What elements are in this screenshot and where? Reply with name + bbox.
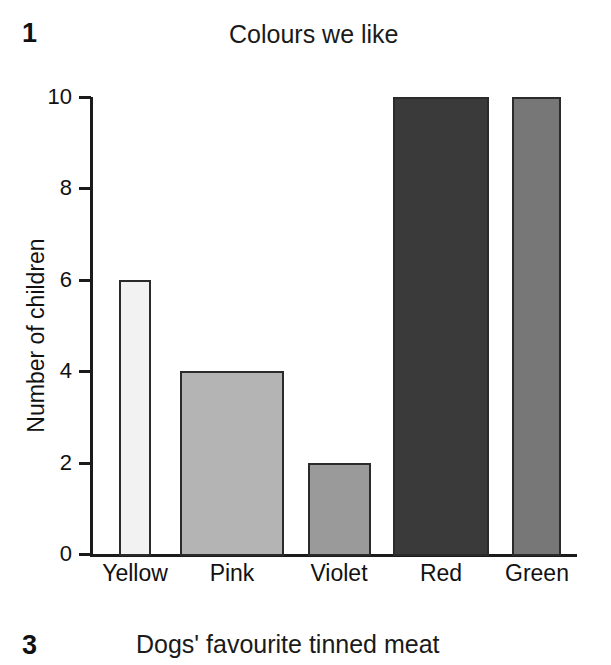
y-axis-tick-label: 10: [26, 86, 72, 108]
y-axis-tick-label: 4: [26, 360, 72, 382]
y-axis-line: [90, 97, 93, 555]
bar-chart-plot-area: Number of children 0246810 YellowPinkVio…: [0, 0, 611, 600]
y-axis-tick-label-wrap: 10: [22, 86, 72, 108]
y-axis-tick-label-wrap: 6: [22, 269, 72, 291]
y-axis-tick-label: 2: [26, 452, 72, 474]
y-axis-tick: [79, 96, 91, 99]
figure-1-chart: 1 Colours we like Number of children 024…: [0, 0, 611, 600]
y-axis-tick-label-wrap: 0: [22, 543, 72, 565]
y-axis-tick-label: 0: [26, 543, 72, 565]
y-axis-tick: [79, 279, 91, 282]
x-axis-label-green: Green: [477, 562, 597, 585]
y-axis-tick-label-wrap: 4: [22, 360, 72, 382]
y-axis-tick: [79, 370, 91, 373]
y-axis-tick-label-wrap: 2: [22, 452, 72, 474]
x-axis-label-pink: Pink: [172, 562, 292, 585]
bar-green: [512, 97, 561, 556]
y-axis-tick-label: 6: [26, 269, 72, 291]
bar-pink: [180, 371, 284, 556]
y-axis-tick: [79, 553, 91, 556]
figure-number-next: 3: [22, 632, 37, 659]
bar-violet: [308, 463, 371, 556]
y-axis-tick: [79, 462, 91, 465]
y-axis-tick-label: 8: [26, 177, 72, 199]
bar-yellow: [119, 280, 151, 556]
bar-red: [393, 97, 489, 556]
y-axis-tick-label-wrap: 8: [22, 177, 72, 199]
y-axis-tick: [79, 187, 91, 190]
next-chart-title: Dogs' favourite tinned meat: [136, 632, 440, 657]
